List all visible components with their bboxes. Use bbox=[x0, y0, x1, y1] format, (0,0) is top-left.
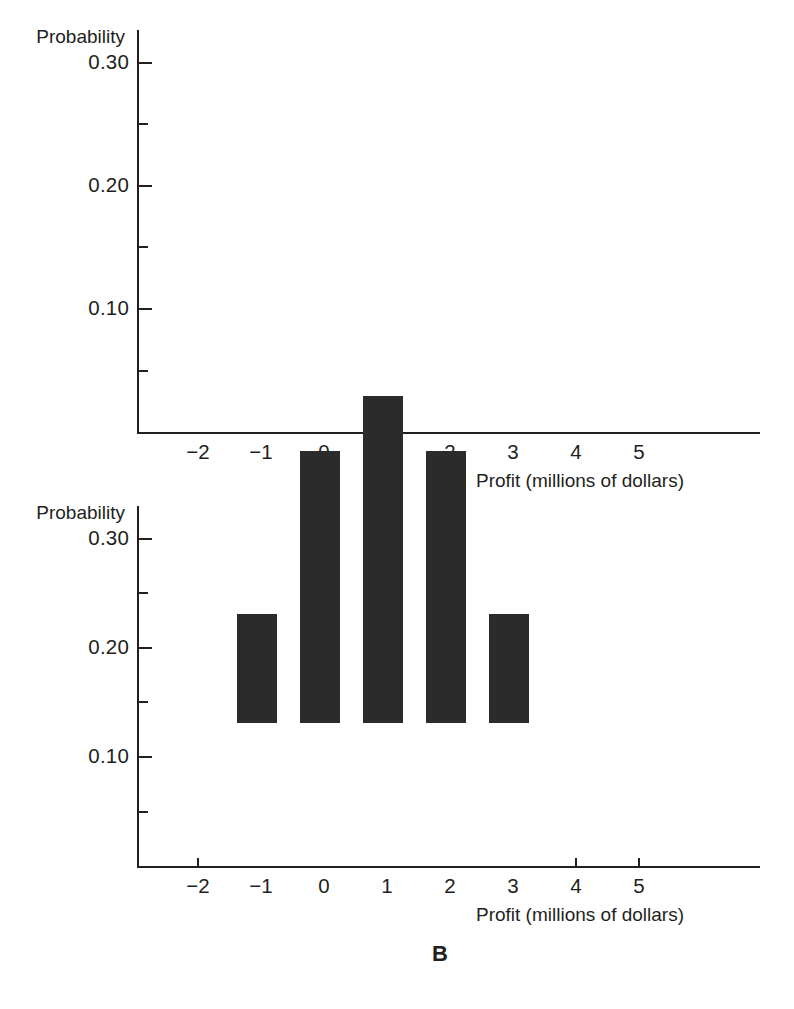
chart-panel-b: Probability 0.30 0.20 0.10 −2 −1 bbox=[0, 489, 794, 1009]
figure-page: Probability 0.30 0.20 0.10 −2 −1 bbox=[0, 0, 794, 1009]
x-axis-line-a bbox=[137, 432, 760, 434]
x-tick-label-b--2: −2 bbox=[168, 874, 228, 898]
bars-layer-b bbox=[0, 489, 794, 866]
x-tick-label-b--1: −1 bbox=[231, 874, 291, 898]
panel-caption-b: B bbox=[390, 941, 490, 967]
x-tick-mark-b-4 bbox=[575, 858, 577, 867]
x-tick-label-a--2: −2 bbox=[168, 440, 228, 464]
bar-b-1 bbox=[363, 396, 403, 723]
x-tick-label-b-2: 2 bbox=[420, 874, 480, 898]
x-tick-label-b-0: 0 bbox=[294, 874, 354, 898]
x-tick-label-a-4: 4 bbox=[546, 440, 606, 464]
x-tick-label-a--1: −1 bbox=[231, 440, 291, 464]
x-axis-title-b: Profit (millions of dollars) bbox=[476, 904, 684, 926]
bars-layer-a bbox=[0, 0, 794, 432]
bar-b-3 bbox=[489, 614, 529, 723]
x-tick-label-a-5: 5 bbox=[609, 440, 669, 464]
x-tick-label-b-3: 3 bbox=[483, 874, 543, 898]
x-tick-label-a-3: 3 bbox=[483, 440, 543, 464]
bar-b-2 bbox=[426, 451, 466, 723]
bar-b--1 bbox=[237, 614, 277, 723]
x-tick-label-b-4: 4 bbox=[546, 874, 606, 898]
x-axis-line-b bbox=[137, 866, 760, 868]
x-tick-mark-b-5 bbox=[638, 858, 640, 867]
x-tick-label-b-5: 5 bbox=[609, 874, 669, 898]
bar-b-0 bbox=[300, 451, 340, 723]
x-tick-label-b-1: 1 bbox=[357, 874, 417, 898]
x-tick-mark-b--2 bbox=[197, 858, 199, 867]
